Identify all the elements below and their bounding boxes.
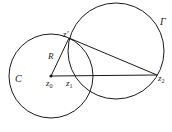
- label-zprime: z′: [62, 29, 70, 39]
- label-c: C: [15, 73, 22, 84]
- segment-z0-z2: [51, 75, 157, 76]
- label-z0: z0: [45, 78, 53, 89]
- geometry-diagram: C Γ R z′ z0 z1 z2: [0, 0, 172, 132]
- label-gamma: Γ: [159, 16, 166, 27]
- circle-gamma: [68, 3, 164, 99]
- label-z1: z1: [65, 78, 73, 89]
- label-z2: z2: [157, 73, 165, 84]
- label-r: R: [47, 51, 54, 61]
- segment-radius-r: [51, 38, 69, 76]
- point-z0-dot: [49, 74, 52, 77]
- segment-zprime-z2: [69, 38, 157, 75]
